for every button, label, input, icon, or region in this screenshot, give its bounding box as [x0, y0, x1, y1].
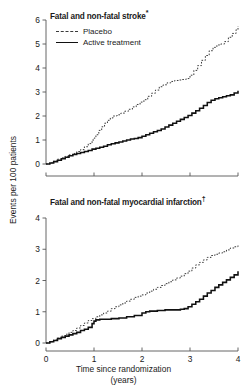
y-axis-tick-label: 2 — [35, 276, 40, 286]
y-axis-tick-label: 4 — [35, 213, 40, 223]
legend-stroke: Placebo Active treatment — [56, 26, 141, 48]
axes-group: 0123401234 — [35, 213, 240, 363]
x-axis-tick-label: 4 — [236, 354, 241, 364]
y-axis-tick-label: 5 — [35, 39, 40, 49]
series-line-active-treatment — [46, 271, 238, 343]
legend-label-placebo: Placebo — [83, 27, 112, 36]
x-axis-tick-label: 0 — [44, 354, 49, 364]
legend-item-placebo: Placebo — [56, 26, 141, 37]
panel-myocardial-infarction: Fatal and non-fatal myocardial infarctio… — [0, 196, 247, 392]
y-axis-tick-label: 3 — [35, 244, 40, 254]
y-axis-tick-label: 1 — [35, 135, 40, 145]
y-axis-tick-label: 4 — [35, 63, 40, 73]
legend-label-active: Active treatment — [83, 38, 141, 47]
x-axis-label-line1: Time since randomization — [0, 364, 247, 375]
x-axis-label-line2: (years) — [0, 375, 247, 386]
y-axis-tick-label: 3 — [35, 87, 40, 97]
y-axis-tick-label: 0 — [35, 338, 40, 348]
x-axis-tick-label: 3 — [188, 354, 193, 364]
x-axis-tick-label: 2 — [140, 354, 145, 364]
panel-stroke: Fatal and non-fatal stroke* 0123456 Plac… — [0, 0, 247, 196]
x-axis-tick-label: 1 — [92, 354, 97, 364]
y-axis-label: Events per 100 patients — [8, 110, 18, 250]
plot-area-myocardial-infarction: 0123401234 — [0, 196, 247, 392]
legend-key-placebo-icon — [56, 28, 78, 35]
y-axis-tick-label: 2 — [35, 111, 40, 121]
y-axis-tick-label: 1 — [35, 307, 40, 317]
series-line-placebo — [46, 246, 238, 344]
figure-cumulative-events: Fatal and non-fatal stroke* 0123456 Plac… — [0, 0, 247, 392]
legend-item-active: Active treatment — [56, 37, 141, 48]
x-axis-label: Time since randomization (years) — [0, 364, 247, 386]
y-axis-tick-label: 6 — [35, 15, 40, 25]
y-axis-tick-label: 0 — [35, 159, 40, 169]
legend-key-active-icon — [56, 39, 78, 46]
